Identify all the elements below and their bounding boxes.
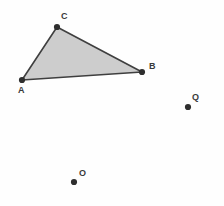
point-label-o: O [79, 169, 86, 178]
vertex-point-b[interactable] [139, 69, 145, 75]
point-label-b: B [149, 62, 156, 71]
point-label-c: C [61, 12, 68, 21]
free-point-o[interactable] [71, 179, 77, 185]
point-label-q: Q [192, 93, 199, 102]
geometry-figure-canvas: A B C Q O [0, 0, 224, 206]
vertex-point-c[interactable] [54, 24, 60, 30]
vertex-point-a[interactable] [19, 77, 25, 83]
geometry-diagram [0, 0, 224, 206]
point-label-a: A [18, 86, 25, 95]
triangle-abc-polygon [22, 27, 142, 80]
free-point-q[interactable] [185, 104, 191, 110]
